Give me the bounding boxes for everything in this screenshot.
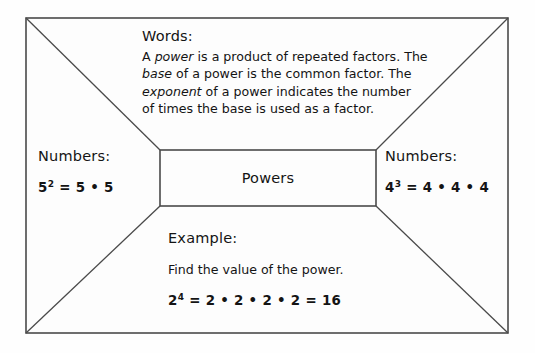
numbers-left-base: 5 <box>38 180 48 195</box>
numbers-left-expression: 52 = 5 • 5 <box>38 180 156 195</box>
words-text: of a power indicates the number <box>202 84 411 99</box>
powers-graphic-organizer: Words: A power is a product of repeated … <box>0 0 535 353</box>
numbers-right-exponent: 3 <box>395 179 402 189</box>
words-line: of times the base is used as a factor. <box>142 100 432 117</box>
words-term: exponent <box>142 84 202 99</box>
numbers-left-heading: Numbers: <box>38 148 156 164</box>
example-heading: Example: <box>168 230 468 246</box>
words-text: of a power is the common factor. The <box>172 66 412 81</box>
words-line: A power is a product of repeated factors… <box>142 48 432 65</box>
center-box-label: Powers <box>242 170 295 186</box>
center-box-label-wrapper: Powers <box>160 150 376 206</box>
section-numbers-right: Numbers: 43 = 4 • 4 • 4 <box>385 148 515 195</box>
section-numbers-left: Numbers: 52 = 5 • 5 <box>38 148 156 195</box>
numbers-left-expansion: = 5 • 5 <box>59 180 114 195</box>
example-exponent: 4 <box>178 292 185 302</box>
example-base: 2 <box>168 293 178 308</box>
words-text: is a product of repeated factors. The <box>194 49 428 64</box>
numbers-right-expression: 43 = 4 • 4 • 4 <box>385 180 515 195</box>
words-text: A <box>142 49 155 64</box>
words-text: of times the base is used as a factor. <box>142 101 374 116</box>
numbers-right-expansion: = 4 • 4 • 4 <box>406 180 489 195</box>
words-body: A power is a product of repeated factors… <box>142 48 432 118</box>
words-term: power <box>155 49 194 64</box>
words-line: exponent of a power indicates the number <box>142 83 432 100</box>
section-words: Words: A power is a product of repeated … <box>142 28 432 118</box>
numbers-right-heading: Numbers: <box>385 148 515 164</box>
example-expansion: = 2 • 2 • 2 • 2 = 16 <box>189 293 341 308</box>
words-line: base of a power is the common factor. Th… <box>142 65 432 82</box>
words-heading: Words: <box>142 28 432 44</box>
words-term: base <box>142 66 172 81</box>
numbers-left-exponent: 2 <box>48 179 55 189</box>
example-prompt: Find the value of the power. <box>168 261 468 278</box>
section-example: Example: Find the value of the power. 24… <box>168 230 468 308</box>
example-work: 24 = 2 • 2 • 2 • 2 = 16 <box>168 293 468 308</box>
numbers-right-base: 4 <box>385 180 395 195</box>
